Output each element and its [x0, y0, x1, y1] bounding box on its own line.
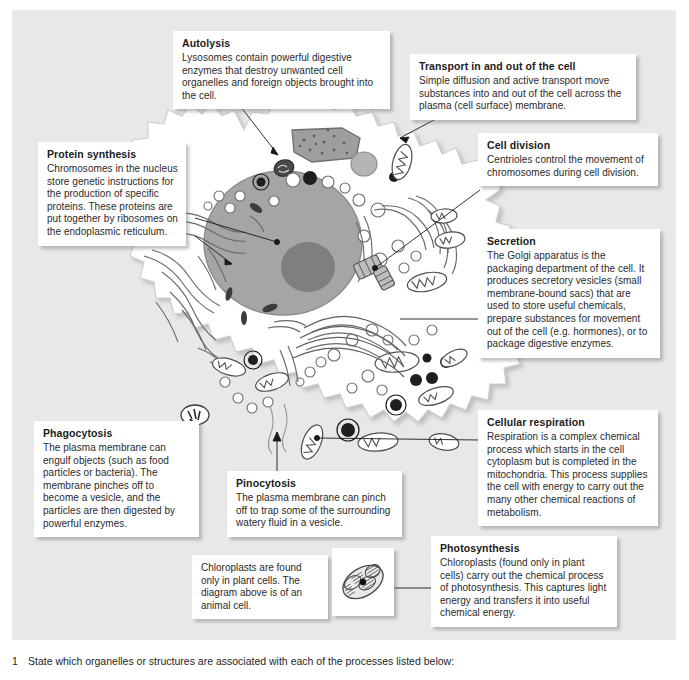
question-text: State which organelles or structures are…: [28, 655, 454, 667]
callout-pinocytosis: Pinocytosis The plasma membrane can pinc…: [227, 471, 402, 537]
callout-title-autolysis: Autolysis: [182, 37, 382, 50]
callout-body-cell-division: Centrioles control the movement of chrom…: [487, 154, 650, 179]
callout-body-protein-synthesis: Chromosomes in the nucleus store genetic…: [47, 163, 178, 239]
chloroplast-leader-dot: [360, 579, 366, 585]
chloroplast-icon: [332, 548, 394, 616]
callout-title-protein-synthesis: Protein synthesis: [47, 148, 178, 161]
callout-body-transport: Simple diffusion and active transport mo…: [419, 75, 628, 113]
callout-phagocytosis: Phagocytosis The plasma membrane can eng…: [34, 421, 199, 537]
callout-photosynthesis: Photosynthesis Chloroplasts (found only …: [431, 536, 617, 627]
callout-transport: Transport in and out of the cell Simple …: [410, 54, 636, 120]
question-line: 1State which organelles or structures ar…: [12, 655, 676, 667]
callout-body-secretion: The Golgi apparatus is the packaging dep…: [487, 250, 652, 351]
callout-cell-division: Cell division Centrioles control the mov…: [478, 133, 658, 186]
chloroplast-note-text: Chloroplasts are found only in plant cel…: [201, 562, 319, 612]
callout-body-cellular-respiration: Respiration is a complex chemical proces…: [487, 431, 650, 519]
chloroplast-thumbnail-box: [332, 548, 394, 616]
callout-title-cell-division: Cell division: [487, 139, 650, 152]
question-number: 1: [12, 655, 28, 667]
callout-body-autolysis: Lysosomes contain powerful digestive enz…: [182, 52, 382, 102]
callout-body-phagocytosis: The plasma membrane can engulf objects (…: [43, 442, 191, 530]
callout-title-phagocytosis: Phagocytosis: [43, 427, 191, 440]
callout-protein-synthesis: Protein synthesis Chromosomes in the nuc…: [38, 142, 186, 246]
chloroplast-note: Chloroplasts are found only in plant cel…: [192, 555, 328, 619]
callout-title-secretion: Secretion: [487, 235, 652, 248]
callout-title-cellular-respiration: Cellular respiration: [487, 416, 650, 429]
callout-secretion: Secretion The Golgi apparatus is the pac…: [478, 229, 660, 358]
callout-title-transport: Transport in and out of the cell: [419, 60, 628, 73]
callout-body-pinocytosis: The plasma membrane can pinch off to tra…: [236, 492, 394, 530]
callout-cellular-respiration: Cellular respiration Respiration is a co…: [478, 410, 658, 526]
callout-autolysis: Autolysis Lysosomes contain powerful dig…: [173, 31, 390, 109]
callout-title-pinocytosis: Pinocytosis: [236, 477, 394, 490]
callout-title-photosynthesis: Photosynthesis: [440, 542, 609, 555]
callout-body-photosynthesis: Chloroplasts (found only in plant cells)…: [440, 557, 609, 620]
cell-diagram-figure-panel: Autolysis Lysosomes contain powerful dig…: [12, 10, 676, 640]
